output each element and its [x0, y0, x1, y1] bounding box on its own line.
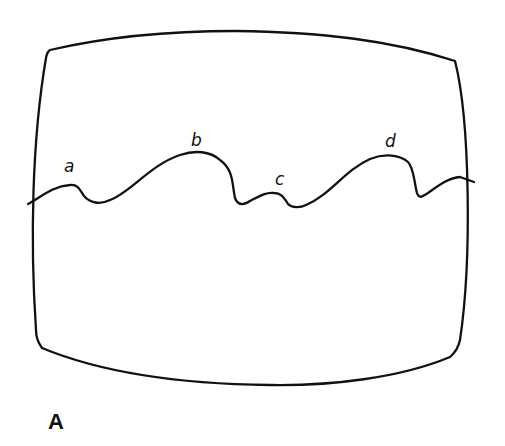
peak-label-a: a: [64, 158, 74, 175]
peak-label-c: c: [275, 171, 284, 188]
screen-frame: [33, 31, 468, 385]
peak-label-d: d: [385, 133, 396, 150]
diagram-canvas: [0, 0, 505, 446]
panel-label: A: [48, 411, 64, 433]
waveform-trace: [28, 152, 474, 207]
peak-label-b: b: [191, 132, 202, 149]
